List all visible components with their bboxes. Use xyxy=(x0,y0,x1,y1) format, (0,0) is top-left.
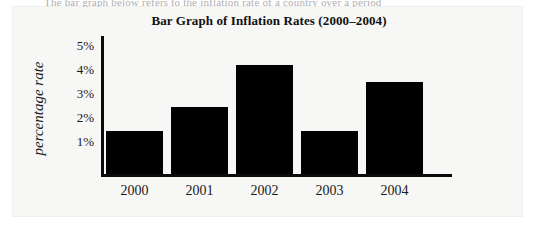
x-axis-line xyxy=(101,174,452,177)
x-tick-label: 2003 xyxy=(301,183,358,199)
bar-2000 xyxy=(106,131,163,174)
y-tick-label: 4% xyxy=(60,63,94,76)
y-axis-label: percentage rate xyxy=(30,49,47,169)
cut-off-body-text: The bar graph below refers to the inflat… xyxy=(44,0,500,7)
y-tick-label: 5% xyxy=(60,39,94,52)
x-tick-label: 2000 xyxy=(106,183,163,199)
y-tick-label: 2% xyxy=(60,111,94,124)
y-tick-label: 3% xyxy=(60,87,94,100)
x-tick-label: 2001 xyxy=(171,183,228,199)
figure-container: The bar graph below refers to the inflat… xyxy=(0,0,538,226)
y-tick-label: 1% xyxy=(60,135,94,148)
bar-2002 xyxy=(236,65,293,174)
bar-series xyxy=(104,36,452,174)
y-axis-tick-labels: 5% 4% 3% 2% 1% xyxy=(56,36,94,177)
x-tick-label: 2004 xyxy=(366,183,423,199)
plot-area xyxy=(101,36,452,177)
x-tick-label: 2002 xyxy=(236,183,293,199)
bar-2004 xyxy=(366,82,423,174)
bar-2001 xyxy=(171,107,228,174)
bar-2003 xyxy=(301,131,358,174)
x-axis-tick-labels: 2000 2001 2002 2003 2004 xyxy=(104,183,452,201)
chart-title: Bar Graph of Inflation Rates (2000–2004) xyxy=(0,13,538,29)
